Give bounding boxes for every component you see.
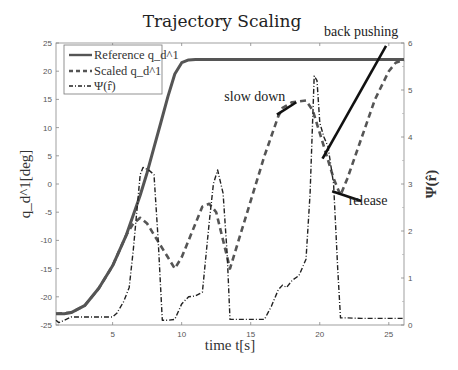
y-right-tick-label: 1 bbox=[408, 274, 413, 283]
trajectory-scaling-chart: Trajectory Scaling 510152025 -25-20-15-1… bbox=[0, 0, 458, 370]
y-tick-label: -10 bbox=[40, 236, 52, 245]
legend-entry-scaled: Scaled q_d^1 bbox=[94, 64, 161, 78]
y-right-tick-label: 3 bbox=[408, 180, 413, 189]
y-tick-label: -15 bbox=[40, 265, 52, 274]
annotation-label-1: back pushing bbox=[324, 24, 398, 39]
x-tick-label: 25 bbox=[384, 330, 393, 339]
y-right-tick-label: 0 bbox=[408, 321, 413, 330]
y-right-tick-label: 2 bbox=[408, 227, 413, 236]
legend-entry-psi: Ψ(r̂) bbox=[94, 79, 116, 93]
y-tick-label: 5 bbox=[48, 152, 53, 161]
chart-title: Trajectory Scaling bbox=[143, 11, 302, 31]
legend: Reference q_d^1 Scaled q_d^1 Ψ(r̂) bbox=[64, 45, 179, 94]
y-tick-label: -25 bbox=[40, 321, 52, 330]
y-tick-label: -5 bbox=[45, 208, 53, 217]
legend-entry-reference: Reference q_d^1 bbox=[94, 48, 179, 62]
y-tick-label: 0 bbox=[48, 180, 53, 189]
y-axis-right-label: Ψ(r̂) bbox=[423, 170, 440, 198]
annotation-label-0: slow down bbox=[224, 89, 285, 104]
annotation-label-2: release bbox=[349, 193, 388, 208]
x-tick-label: 5 bbox=[110, 330, 115, 339]
y-tick-label: 10 bbox=[43, 124, 52, 133]
y-tick-label: 20 bbox=[43, 67, 52, 76]
y-tick-label: -20 bbox=[40, 293, 52, 302]
x-tick-label: 10 bbox=[177, 330, 186, 339]
x-axis-label: time t[s] bbox=[205, 337, 255, 353]
y-right-tick-label: 6 bbox=[408, 39, 413, 48]
x-tick-label: 20 bbox=[315, 330, 324, 339]
y-right-tick-label: 5 bbox=[408, 86, 413, 95]
y-tick-label: 25 bbox=[43, 39, 52, 48]
y-right-tick-label: 4 bbox=[408, 133, 413, 142]
y-tick-label: 15 bbox=[43, 95, 52, 104]
y-axis-label: q_d^1[deg] bbox=[17, 150, 33, 219]
